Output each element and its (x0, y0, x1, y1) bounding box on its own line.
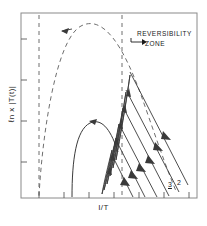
curve-label-two: 2 (177, 179, 181, 186)
y-axis-label: ℓn x |T(t)| (7, 86, 16, 122)
curve-label-three: 3 (168, 181, 172, 188)
y-axis-label-wrapper: ℓn x |T(t)| (0, 59, 18, 149)
upper-curve-arrow-icon (61, 28, 72, 34)
figure-container: REVERSIBILITY ZONE 3 2 I/T ℓn x |T(t)| (0, 0, 207, 226)
reversibility-annotation-line2: ZONE (145, 40, 165, 47)
reversibility-annotation-line1: REVERSIBILITY (137, 30, 192, 37)
lower-curve-arrow-icon (89, 119, 97, 125)
tie-line-3 (123, 107, 169, 196)
hysteresis-loop-1 (116, 75, 130, 160)
y-axis-ticks (21, 39, 27, 162)
hysteresis-loops (102, 75, 130, 194)
x-axis-ticks (39, 192, 189, 198)
x-axis-label: I/T (0, 203, 207, 212)
